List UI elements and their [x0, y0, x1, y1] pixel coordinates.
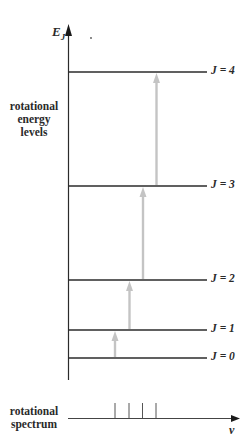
- energy-axis-arrowhead-icon: [65, 24, 72, 36]
- arrowhead-icon: [140, 187, 147, 197]
- stray-mark: [90, 37, 92, 39]
- arrowhead-icon: [126, 281, 133, 291]
- rotational-spectrum-label: rotational spectrum: [4, 405, 64, 431]
- rotational-energy-levels-label: rotational energy levels: [6, 100, 62, 139]
- level-label-j1: J = 1: [211, 322, 235, 334]
- level-label-j4: J = 4: [211, 64, 235, 76]
- arrowhead-icon: [153, 73, 160, 83]
- frequency-axis-label: ν: [229, 423, 234, 437]
- level-label-j2: J = 2: [211, 272, 235, 284]
- energy-axis-label: EJ: [52, 24, 65, 42]
- transition-arrows: [112, 73, 161, 357]
- energy-levels: [68, 72, 207, 358]
- spectral-lines: [115, 403, 156, 418]
- frequency-axis-arrowhead-icon: [231, 415, 240, 422]
- level-label-j0: J = 0: [211, 350, 235, 362]
- arrowhead-icon: [112, 331, 119, 341]
- level-label-j3: J = 3: [211, 178, 235, 190]
- energy-level-diagram: [0, 0, 247, 437]
